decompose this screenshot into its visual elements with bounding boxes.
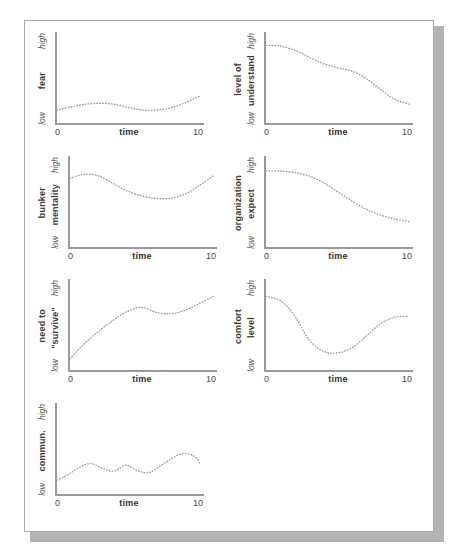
x-axis-title: time xyxy=(132,374,151,384)
y-tick-high: high xyxy=(247,157,256,173)
x-tick-min: 0 xyxy=(264,374,269,384)
plot-area xyxy=(55,404,203,496)
y-label-inner: highlevellow xyxy=(245,280,258,372)
y-axis-labels: bunkerhighmentalitylow xyxy=(36,157,62,249)
y-axis-labels: highcommun.low xyxy=(36,404,49,496)
y-label-outer: organization xyxy=(232,157,245,249)
y-axis-labels: need tohigh"survive"low xyxy=(36,280,62,372)
y-label-inner-text: mentality xyxy=(51,184,60,225)
data-curve xyxy=(266,170,409,221)
x-tick-max: 10 xyxy=(402,374,412,384)
y-label-outer-text: need to xyxy=(38,309,47,342)
x-axis-labels: 0time10 xyxy=(264,251,412,267)
y-tick-low: low xyxy=(38,483,47,496)
x-axis-title: time xyxy=(328,251,347,261)
x-tick-min: 0 xyxy=(68,374,73,384)
plot-area xyxy=(264,33,412,125)
y-label-outer: comfort xyxy=(232,280,245,372)
x-axis-title: time xyxy=(328,374,347,384)
x-tick-max: 10 xyxy=(193,498,203,508)
y-label-outer-text: level of xyxy=(234,63,243,96)
y-tick-high: high xyxy=(51,157,60,173)
y-tick-high: high xyxy=(38,33,47,49)
data-curve xyxy=(266,45,409,104)
plot-svg xyxy=(68,157,216,249)
chart-cell: highfearlow0time10 xyxy=(33,31,229,155)
chart-grid: highfearlow0time10level ofhighunderstand… xyxy=(25,21,433,531)
x-tick-max: 10 xyxy=(206,374,216,384)
y-label-outer: level of xyxy=(232,33,245,125)
x-axis-title: time xyxy=(132,251,151,261)
y-label-inner-text: level xyxy=(247,317,256,338)
chart-cell: organizationhighexpectlow0time10 xyxy=(229,155,425,279)
y-axis-labels: comforthighlevellow xyxy=(232,280,258,372)
y-label-inner-text: fear xyxy=(38,72,47,89)
x-axis-title: time xyxy=(119,127,138,137)
chart-cell: need tohigh"survive"low0time10 xyxy=(33,278,229,402)
figure-sheet: highfearlow0time10level ofhighunderstand… xyxy=(24,20,434,532)
chart-1: highfearlow0time10 xyxy=(36,33,226,149)
data-curve xyxy=(70,174,213,199)
data-curve xyxy=(57,96,200,110)
plot-area xyxy=(55,33,203,125)
chart-6: comforthighlevellow0time10 xyxy=(232,280,422,396)
x-tick-min: 0 xyxy=(264,127,269,137)
y-axis-labels: level ofhighunderstandlow xyxy=(232,33,258,125)
y-tick-low: low xyxy=(51,359,60,372)
chart-5: need tohigh"survive"low0time10 xyxy=(36,280,226,396)
chart-2: level ofhighunderstandlow0time10 xyxy=(232,33,422,149)
y-label-inner-text: "survive" xyxy=(51,307,60,349)
y-axis-labels: organizationhighexpectlow xyxy=(232,157,258,249)
y-label-outer: need to xyxy=(36,280,49,372)
y-tick-low: low xyxy=(247,359,256,372)
x-axis-labels: 0time10 xyxy=(68,251,216,267)
chart-cell: comforthighlevellow0time10 xyxy=(229,278,425,402)
y-tick-high: high xyxy=(247,33,256,49)
x-axis-labels: 0time10 xyxy=(55,127,203,143)
chart-3: bunkerhighmentalitylow0time10 xyxy=(36,157,226,273)
y-label-outer-text: comfort xyxy=(234,309,243,344)
empty-cell xyxy=(229,402,425,526)
x-tick-min: 0 xyxy=(264,251,269,261)
x-tick-max: 10 xyxy=(206,251,216,261)
y-tick-high: high xyxy=(247,280,256,296)
y-tick-low: low xyxy=(51,236,60,249)
chart-cell: level ofhighunderstandlow0time10 xyxy=(229,31,425,155)
data-curve xyxy=(57,453,200,480)
plot-area xyxy=(264,280,412,372)
x-tick-min: 0 xyxy=(55,498,60,508)
x-axis-labels: 0time10 xyxy=(264,374,412,390)
x-tick-min: 0 xyxy=(55,127,60,137)
x-axis-labels: 0time10 xyxy=(55,498,203,514)
plot-svg xyxy=(55,33,203,125)
y-label-inner: highcommun.low xyxy=(36,404,49,496)
plot-area xyxy=(68,280,216,372)
x-tick-max: 10 xyxy=(402,127,412,137)
chart-4: organizationhighexpectlow0time10 xyxy=(232,157,422,273)
chart-cell: highcommun.low0time10 xyxy=(33,402,229,526)
y-label-inner-text: understand xyxy=(247,55,256,106)
page-wrapper: highfearlow0time10level ofhighunderstand… xyxy=(0,0,457,553)
y-label-inner: highexpectlow xyxy=(245,157,258,249)
plot-svg xyxy=(68,280,216,372)
y-label-inner: highunderstandlow xyxy=(245,33,258,125)
y-label-outer-text: bunker xyxy=(38,187,47,218)
y-tick-high: high xyxy=(38,404,47,420)
plot-svg xyxy=(55,404,203,496)
plot-area xyxy=(68,157,216,249)
chart-cell: bunkerhighmentalitylow0time10 xyxy=(33,155,229,279)
x-tick-max: 10 xyxy=(193,127,203,137)
x-axis-title: time xyxy=(328,127,347,137)
y-label-inner-text: commun. xyxy=(38,430,47,471)
data-curve xyxy=(70,296,213,358)
plot-svg xyxy=(264,157,412,249)
y-axis-labels: highfearlow xyxy=(36,33,49,125)
y-label-outer: bunker xyxy=(36,157,49,249)
y-tick-low: low xyxy=(38,112,47,125)
data-curve xyxy=(266,296,409,353)
x-axis-title: time xyxy=(119,498,138,508)
y-tick-low: low xyxy=(247,112,256,125)
y-tick-low: low xyxy=(247,236,256,249)
y-label-inner-text: expect xyxy=(247,189,256,219)
y-label-outer-text: organization xyxy=(234,175,243,231)
